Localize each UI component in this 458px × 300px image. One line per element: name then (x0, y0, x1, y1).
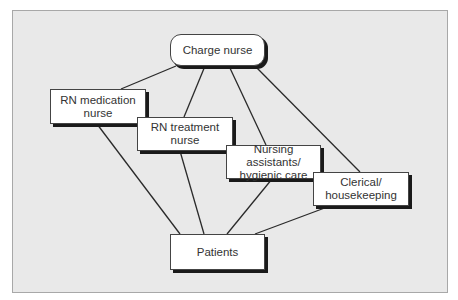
edge-clerical-patients (255, 206, 330, 234)
node-label: RN treatment nurse (145, 121, 225, 147)
node-label: Clerical/ housekeeping (319, 176, 403, 202)
node-patients: Patients (170, 234, 265, 270)
node-clerical-housekeeping: Clerical/ housekeeping (313, 172, 409, 206)
node-nursing-assistants: Nursing assistants/ hygienic care (226, 145, 321, 179)
node-label: Patients (197, 246, 239, 259)
node-rn-medication-nurse: RN medication nurse (50, 89, 146, 124)
edge-rntreat-patients (180, 151, 204, 234)
edge-charge-rntreat (184, 66, 205, 117)
node-label: Charge nurse (183, 44, 253, 57)
node-label: Nursing assistants/ hygienic care (228, 143, 320, 182)
edge-nursing-patients (227, 179, 272, 234)
node-label: RN medication nurse (58, 94, 138, 120)
edge-charge-rnmed (121, 66, 176, 89)
node-charge-nurse: Charge nurse (170, 34, 265, 66)
edge-charge-nursing (229, 66, 266, 145)
node-rn-treatment-nurse: RN treatment nurse (137, 117, 233, 151)
